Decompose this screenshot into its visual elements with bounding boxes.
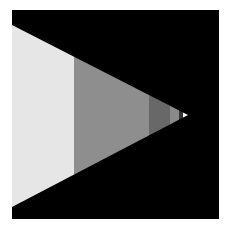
band-3 xyxy=(170,10,179,219)
band-4 xyxy=(179,10,183,219)
band-1 xyxy=(74,10,149,219)
band-2 xyxy=(149,10,170,219)
black-panel xyxy=(12,10,219,219)
band-0 xyxy=(12,10,74,219)
gray-bands xyxy=(12,10,188,219)
band-5 xyxy=(183,10,188,219)
triangle-graphic xyxy=(12,10,219,219)
